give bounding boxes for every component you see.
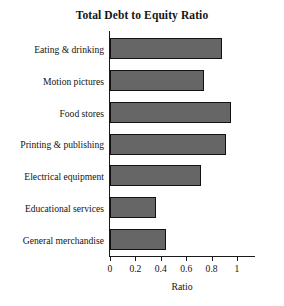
category-label-food-stores: Food stores [0,108,104,119]
x-tick-mark [212,256,213,261]
x-tick-mark [186,256,187,261]
category-label-eating-and-drinking: Eating & drinking [0,44,104,55]
x-tick-mark [135,256,136,261]
x-tick-label: 1 [217,263,257,274]
category-label-printing-and-publishing: Printing & publishing [0,139,104,150]
category-label-general-merchandise: General merchandise [0,235,104,246]
bar-chart: Total Debt to Equity Ratio Eating & drin… [0,0,284,306]
x-tick-mark [237,256,238,261]
x-tick-mark [110,256,111,261]
category-label-electrical-equipment: Electrical equipment [0,171,104,182]
plot-area [110,33,237,256]
bar-general-merchandise[interactable] [110,229,166,250]
bar-motion-pictures[interactable] [110,70,204,91]
chart-title: Total Debt to Equity Ratio [0,9,284,22]
x-tick-mark [161,256,162,261]
category-label-educational-services: Educational services [0,203,104,214]
bar-row [110,129,237,161]
x-axis-title: Ratio [109,281,255,292]
bar-row [110,33,237,65]
bar-row [110,224,237,256]
bar-printing-and-publishing[interactable] [110,134,226,155]
category-label-motion-pictures: Motion pictures [0,76,104,87]
bar-row [110,65,237,97]
bar-educational-services[interactable] [110,197,156,218]
bar-food-stores[interactable] [110,102,231,123]
bar-row [110,160,237,192]
bar-eating-and-drinking[interactable] [110,38,222,59]
bar-electrical-equipment[interactable] [110,165,201,186]
bar-row [110,192,237,224]
x-axis-line [109,256,255,257]
bar-row [110,97,237,129]
